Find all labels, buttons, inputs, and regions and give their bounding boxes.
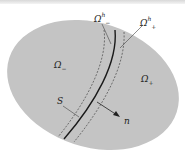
label-omega-plus: Ω+ <box>141 75 154 86</box>
domain-diagram <box>0 0 185 155</box>
domain-ellipse <box>0 0 185 155</box>
label-interface-s: S <box>57 97 63 106</box>
label-normal-n: n <box>124 117 130 126</box>
label-omega-minus: Ω− <box>54 61 67 72</box>
label-omega-plus-h: Ωh+ <box>140 17 156 30</box>
label-omega-minus-h: Ωh− <box>94 13 110 26</box>
